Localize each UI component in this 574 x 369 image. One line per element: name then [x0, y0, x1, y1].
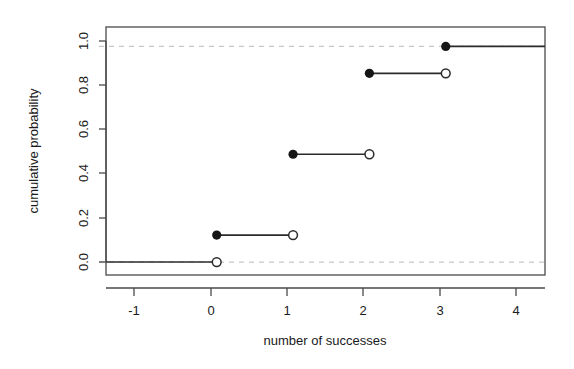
cdf-step-chart: 1.0 0.8 0.6 0.4 0.2 0.0 -1 0 1 2 3 4 num…: [0, 0, 574, 369]
x-tick-labels: -1 0 1 2 3 4: [128, 303, 519, 318]
y-axis: [99, 41, 106, 262]
open-point-1-0.125: [289, 231, 298, 240]
filled-point-1-0.5: [288, 150, 297, 159]
y-tick-label-0.8: 0.8: [76, 76, 91, 94]
open-point-markers: [212, 69, 450, 266]
x-tick-label-0: 0: [207, 303, 214, 318]
y-tick-label-0.2: 0.2: [76, 209, 91, 227]
x-tick-label-2: 2: [359, 303, 366, 318]
filled-point-2-0.875: [365, 69, 374, 78]
open-point-3-0.875: [441, 69, 450, 78]
x-tick-label-1: 1: [283, 303, 290, 318]
y-tick-labels: 1.0 0.8 0.6 0.4 0.2 0.0: [76, 32, 91, 271]
y-tick-label-0.6: 0.6: [76, 120, 91, 138]
y-axis-title: cumulative probability: [26, 88, 41, 214]
x-tick-label--1: -1: [128, 303, 140, 318]
y-tick-label-0.0: 0.0: [76, 253, 91, 271]
y-tick-label-0.4: 0.4: [76, 164, 91, 182]
plot-frame: [106, 27, 545, 275]
x-axis-title: number of successes: [264, 333, 387, 348]
chart-container: 1.0 0.8 0.6 0.4 0.2 0.0 -1 0 1 2 3 4 num…: [0, 0, 574, 369]
y-tick-label-1.0: 1.0: [76, 32, 91, 50]
open-point-0-0: [212, 258, 221, 267]
x-tick-label-4: 4: [512, 303, 519, 318]
filled-point-markers: [212, 42, 450, 240]
filled-point-0-0.125: [212, 231, 221, 240]
open-point-2-0.5: [365, 150, 374, 159]
x-tick-label-3: 3: [436, 303, 443, 318]
filled-point-3-1: [441, 42, 450, 51]
step-function-series: [106, 46, 545, 262]
x-axis: [106, 288, 545, 296]
